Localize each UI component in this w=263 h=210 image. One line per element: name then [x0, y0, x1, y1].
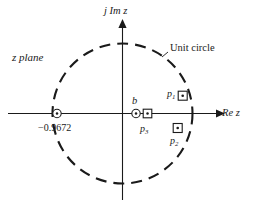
- zero-value-label-text: −0.9672: [38, 122, 71, 133]
- z-plane-label: z plane: [12, 52, 43, 63]
- zero-value-label: −0.9672: [38, 123, 71, 133]
- pole-p2-label: p2: [170, 136, 178, 148]
- imaginary-axis: [118, 19, 126, 200]
- real-axis-label: Re z: [222, 108, 240, 119]
- imaginary-axis-arrow: [118, 19, 126, 28]
- zero-marker-minus-0-9672: [53, 109, 61, 117]
- imaginary-axis-label: j Im z: [104, 6, 127, 17]
- unit-circle-label-text: Unit circle: [170, 42, 215, 53]
- z-plane-label-text: z plane: [12, 51, 43, 63]
- pole-p2-label-subscript: 2: [175, 140, 178, 147]
- pole-marker-p2: [173, 124, 182, 133]
- pole-p1-label: p1: [167, 89, 175, 101]
- zero-b-label: b: [132, 96, 137, 107]
- zero-marker-b: [132, 109, 140, 117]
- real-axis-label-text: Re z: [222, 107, 240, 118]
- pole-zero-diagram: z plane Unit circle j Im z Re z −0.9672 …: [0, 0, 263, 210]
- pole-marker-p3: [143, 109, 152, 118]
- zero-b-label-text: b: [132, 95, 137, 106]
- pole-p3-label: p3: [140, 124, 148, 136]
- unit-circle-leader: [162, 52, 168, 57]
- unit-circle-label: Unit circle: [170, 43, 215, 54]
- pole-p1-label-subscript: 1: [172, 93, 175, 100]
- pole-marker-p1: [178, 91, 187, 100]
- pole-p3-label-subscript: 3: [145, 128, 148, 135]
- imaginary-axis-label-text: j Im z: [104, 5, 127, 16]
